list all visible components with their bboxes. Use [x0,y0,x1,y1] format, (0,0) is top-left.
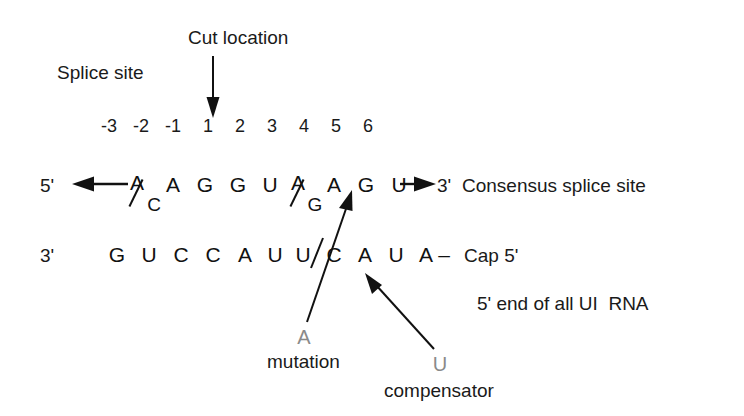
ruler-position--2: -2 [127,117,155,135]
splice-site-diagram: Splice site Cut location -3 -2 -1 1 2 3 … [0,0,744,416]
cut-location-label: Cut location [188,28,288,47]
bottom-base-6: U [262,244,288,265]
top-base-6: U [385,174,413,195]
top-base-1: G [224,174,252,195]
ruler-position-4: 4 [290,117,318,135]
five-prime-left-arrow-icon [72,177,128,192]
bottom-base-4: C [200,244,226,265]
cap-label: Cap 5' [464,246,518,265]
bottom-base-5: A [232,244,258,265]
top-base-5: G [352,174,380,195]
u-compensator-letter: U [427,354,453,374]
bottom-base-10: U [383,244,409,265]
bottom-base-8: C [321,244,347,265]
ruler-position--1: -1 [159,117,187,135]
top-strand-3prime-terminus: 3' [437,176,451,195]
top-base-minus3-denominator: C [145,195,163,214]
ruler-position-6: 6 [354,117,382,135]
cut-location-arrow-icon [207,56,220,118]
ruler-position-3: 3 [258,117,286,135]
bottom-base-7: U [290,244,316,265]
ruler-position-5: 5 [322,117,350,135]
consensus-splice-site-caption: Consensus splice site [462,176,646,195]
bottom-base-2: U [136,244,162,265]
u-compensator-leader-arrow-icon [365,273,434,349]
top-strand-5prime-terminus: 5' [40,176,54,195]
ruler-position-1: 1 [194,117,222,135]
cap-linker-dash: – [434,244,454,265]
bottom-base-1: G [104,244,130,265]
a-mutation-label: mutation [267,352,340,371]
top-base-3-denominator: G [306,195,324,214]
u1-rna-caption: 5' end of all UI RNA [477,294,649,313]
a-mutation-letter: A [291,327,317,347]
ruler-position--3: -3 [95,117,123,135]
top-base-minus1: G [191,174,219,195]
bottom-base-9: A [352,244,378,265]
top-base-2: U [256,174,284,195]
ruler-position-2: 2 [226,117,254,135]
bottom-strand-3prime-terminus: 3' [40,246,54,265]
top-base-4: A [320,174,348,195]
bottom-base-3: C [168,244,194,265]
top-base-minus2: A [159,174,187,195]
splice-site-label: Splice site [57,63,144,82]
u-compensator-label: compensator [384,381,494,400]
